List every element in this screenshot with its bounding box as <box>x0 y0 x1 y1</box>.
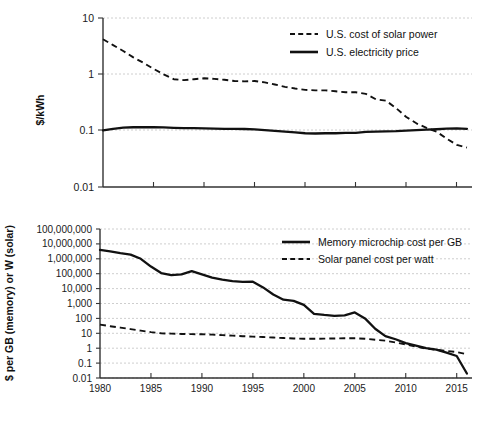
xtick-label-1985: 1985 <box>140 383 163 394</box>
ytick-label-10: 10 <box>82 12 94 24</box>
ytick-label-1-000: 1,000 <box>67 298 92 309</box>
chart-panel-bottom: 100,000,00010,000,0001,000,000100,00010,… <box>0 211 480 422</box>
ytick-label-0-01: 0.01 <box>73 373 93 384</box>
bottom-legend: Memory microchip cost per GB Solar panel… <box>282 236 462 265</box>
xtick-label-2010: 2010 <box>395 383 418 394</box>
top-y-axis-title: $/kWh <box>34 95 46 126</box>
xtick-label-2005: 2005 <box>344 383 367 394</box>
ytick-label-1: 1 <box>88 68 94 80</box>
ytick-label-100-000: 100,000 <box>56 268 93 279</box>
bottom-y-axis-title: $ per GB (memory) or W (solar) <box>3 225 15 381</box>
top-ytick-labels: 10 1 0.1 0.01 <box>74 12 95 193</box>
xtick-label-1990: 1990 <box>191 383 214 394</box>
legend-label-solar-panel-cost: Solar panel cost per watt <box>318 253 434 265</box>
bottom-xtick-labels: 19801985199019952000200520102015 <box>89 383 468 394</box>
ytick-label-10: 10 <box>81 328 93 339</box>
ytick-label-100: 100 <box>75 313 92 324</box>
xtick-label-1980: 1980 <box>89 383 112 394</box>
ytick-label-10-000: 10,000 <box>61 283 92 294</box>
top-chart-svg: 10 1 0.1 0.01 $/kWh U.S. cost of solar p… <box>0 0 480 211</box>
chart-panel-top: 10 1 0.1 0.01 $/kWh U.S. cost of solar p… <box>0 0 480 211</box>
xtick-label-1995: 1995 <box>242 383 265 394</box>
bottom-chart-svg: 100,000,00010,000,0001,000,000100,00010,… <box>0 211 480 422</box>
series-memory-microchip-cost-per-gb <box>100 250 467 374</box>
legend-label-solar-cost: U.S. cost of solar power <box>326 28 438 40</box>
ytick-label-0-1: 0.1 <box>78 358 92 369</box>
bottom-ytick-labels: 100,000,00010,000,0001,000,000100,00010,… <box>36 224 92 384</box>
ytick-label-0-1: 0.1 <box>79 124 94 136</box>
ytick-label-10-000-000: 10,000,000 <box>42 238 92 249</box>
legend-label-memory-cost: Memory microchip cost per GB <box>318 236 462 248</box>
xtick-label-2015: 2015 <box>446 383 469 394</box>
ytick-label-0-01: 0.01 <box>74 181 95 193</box>
series-solar-panel-cost-per-watt <box>100 325 467 354</box>
bottom-xtick-marks <box>151 373 457 378</box>
ytick-label-100-000-000: 100,000,000 <box>36 224 92 235</box>
figure-two-panel-log-charts: 10 1 0.1 0.01 $/kWh U.S. cost of solar p… <box>0 0 480 422</box>
top-axes <box>98 18 472 187</box>
ytick-label-1-000-000: 1,000,000 <box>48 253 93 264</box>
ytick-label-1: 1 <box>86 343 92 354</box>
bottom-gridlines <box>100 229 472 378</box>
legend-label-electricity-price: U.S. electricity price <box>326 46 419 58</box>
top-legend: U.S. cost of solar power U.S. electricit… <box>290 28 438 58</box>
xtick-label-2000: 2000 <box>293 383 316 394</box>
